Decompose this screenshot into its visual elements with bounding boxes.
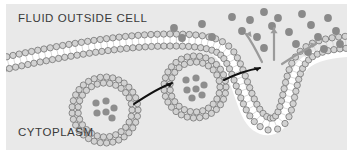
phospholipid-head [179,43,185,49]
phospholipid-head [226,43,232,49]
extracellular-particle [260,44,268,52]
phospholipid-head [154,31,160,37]
phospholipid-head [293,88,299,94]
vesicle-head-inner [100,80,106,86]
vesicle-head-outer [190,53,196,59]
vesicle-head-outer [197,53,203,59]
phospholipid-head [242,73,248,79]
phospholipid-head [117,46,123,52]
phospholipid-head [247,113,253,119]
vesicle-head-inner [187,108,193,114]
label-cytoplasm: CYTOPLASM [18,126,94,138]
vesicle-head-inner [94,81,100,87]
phospholipid-head [331,47,337,53]
vesicle-head-inner [167,87,173,93]
phospholipid-head [291,94,297,100]
phospholipid-head [167,43,173,49]
vesicle-head-inner [75,104,81,110]
phospholipid-head [16,51,22,57]
cargo-particle [192,74,199,81]
phospholipid-head [238,95,244,101]
phospholipid-head [294,82,300,88]
extracellular-particle [198,20,206,28]
phospholipid-head [148,31,154,37]
vesicle-head-outer [70,116,76,122]
phospholipid-head [111,47,117,53]
figure-canvas: FLUID OUTSIDE CELL CYTOPLASM [0,0,353,166]
cargo-particle [192,85,199,92]
extracellular-particle [324,14,332,22]
phospholipid-head [122,33,128,39]
vesicle-head-inner [100,134,106,140]
vesicle-head-inner [94,133,100,139]
phospholipid-head [322,36,328,42]
vesicle-head-inner [88,83,94,89]
phospholipid-head [91,37,97,43]
vesicle-head-inner [200,108,206,114]
phospholipid-head [290,101,296,107]
extracellular-particle [246,16,254,24]
phospholipid-head [278,98,284,104]
phospholipid-head [280,92,286,98]
phospholipid-head [274,126,280,132]
phospholipid-head [161,43,167,49]
phospholipid-head [237,61,243,67]
phospholipid-head [173,43,179,49]
extracellular-particle [332,27,340,35]
cargo-particle [182,76,189,83]
phospholipid-head [86,50,92,56]
phospholipid-head [31,60,37,66]
vesicle-head-outer [162,93,168,99]
phospholipid-head [282,79,288,85]
vesicle-head-outer [132,95,138,101]
extracellular-particle [336,40,344,48]
phospholipid-head [244,79,250,85]
phospholipid-head [97,36,103,42]
phospholipid-head [135,32,141,38]
phospholipid-head [284,73,290,79]
phospholipid-head [148,43,154,49]
phospholipid-head [43,58,49,64]
phospholipid-head [185,43,191,49]
phospholipid-head [6,65,12,71]
vesicle-head-inner [193,59,199,65]
phospholipid-head [235,89,241,95]
vesicle-head-outer [220,72,226,78]
vesicle-head-inner [107,80,113,86]
vesicle-head-outer [223,84,229,90]
phospholipid-head [247,85,253,91]
extracellular-particle [298,10,306,18]
phospholipid-head [62,54,68,60]
phospholipid-head [198,45,204,51]
vesicle-head-inner [187,59,193,65]
phospholipid-head [10,52,16,58]
cargo-particle [188,94,195,101]
extracellular-particle [307,21,315,29]
phospholipid-head [329,35,335,41]
vesicle-head-outer [97,74,103,80]
phospholipid-head [99,48,105,54]
phospholipid-head [234,55,240,61]
phospholipid-head [141,32,147,38]
phospholipid-head [66,41,72,47]
extracellular-particle [260,8,268,16]
phospholipid-head [193,32,199,38]
phospholipid-head [289,60,295,66]
cargo-particle [183,86,190,93]
vesicle-head-outer [197,114,203,120]
phospholipid-head [286,67,292,73]
vesicle-head-inner [76,116,82,122]
vesicle-head-inner [193,109,199,115]
cargo-particle [92,99,99,106]
cargo-particle [102,97,109,104]
vesicle-head-outer [97,140,103,146]
phospholipid-head [251,118,257,124]
phospholipid-head [116,34,122,40]
extracellular-particle [238,27,246,35]
vesicle-head-outer [70,98,76,104]
vesicle-head-outer [165,99,171,105]
lipid-tail [138,38,139,45]
extracellular-particle [285,28,293,36]
phospholipid-head [55,55,61,61]
phospholipid-head [25,61,31,67]
